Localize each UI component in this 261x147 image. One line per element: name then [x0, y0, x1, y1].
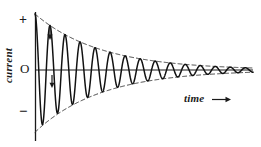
plot-canvas: [0, 0, 261, 147]
y-axis-negative-tick-label: −: [19, 104, 28, 119]
damped-oscillation-figure: + O − current time: [0, 0, 261, 147]
time-arrow-icon: [212, 97, 231, 102]
x-axis-title: time: [184, 93, 204, 104]
damped-current-waveform: [35, 14, 253, 124]
y-axis-zero-tick-label: O: [20, 62, 29, 75]
y-axis-positive-tick-label: +: [19, 13, 27, 27]
y-axis-title: current: [3, 48, 14, 83]
lower-envelope-curve: [35, 72, 253, 132]
